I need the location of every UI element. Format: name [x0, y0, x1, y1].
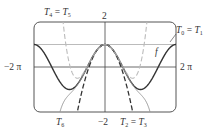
- y-min-label: −2: [98, 117, 108, 127]
- taylor-polynomial-diagram: 2 −2 −2 π 2 π f T0 = T1 T4 = T5 T6 T2 = …: [0, 0, 217, 129]
- f-label: f: [155, 47, 159, 57]
- x-min-label: −2 π: [4, 62, 21, 72]
- t4-t5-label: T4 = T5: [44, 7, 71, 18]
- y-max-label: 2: [102, 11, 107, 21]
- t2-t3-label: T2 = T3: [120, 117, 147, 128]
- x-max-label: 2 π: [180, 62, 192, 72]
- t0-t1-label: T0 = T1: [176, 25, 203, 36]
- t6-label: T6: [56, 117, 64, 128]
- t0-label-arrow: [170, 34, 176, 42]
